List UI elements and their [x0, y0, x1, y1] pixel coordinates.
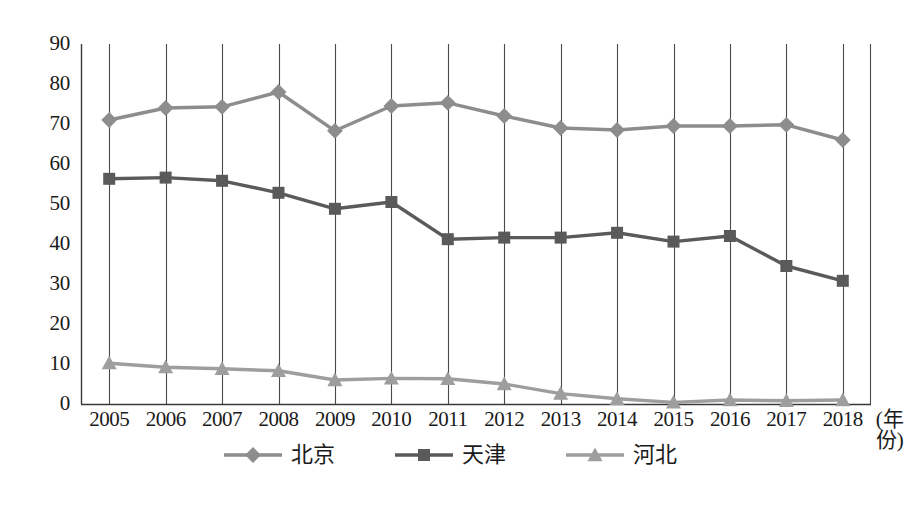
- data-point-marker: [103, 173, 115, 185]
- legend-label: 河北: [633, 444, 677, 466]
- x-axis-tick-label: 2006: [136, 409, 196, 430]
- y-axis-tick-label: 10: [20, 353, 70, 374]
- series-1: [101, 84, 850, 148]
- x-axis-tick-label: 2012: [474, 409, 534, 430]
- y-axis-tick-label: 50: [20, 193, 70, 214]
- legend-label: 天津: [462, 444, 506, 466]
- data-point-marker: [609, 122, 625, 138]
- y-axis-tick-label: 20: [20, 313, 70, 334]
- legend-marker-square-icon: [393, 443, 455, 467]
- x-axis-tick-label: 2005: [79, 409, 139, 430]
- y-axis-tick-label: 80: [20, 73, 70, 94]
- data-point-marker: [329, 203, 341, 215]
- data-point-marker: [835, 132, 851, 148]
- data-point-marker: [160, 172, 172, 184]
- x-axis-tick-label: 2015: [644, 409, 704, 430]
- x-axis-tick-label: 2007: [192, 409, 252, 430]
- data-point-marker: [101, 112, 117, 128]
- data-point-marker: [780, 260, 792, 272]
- data-point-marker: [442, 233, 454, 245]
- data-point-marker: [666, 118, 682, 134]
- series-line: [109, 178, 843, 281]
- data-point-marker: [385, 196, 397, 208]
- y-axis-tick-label: 0: [20, 393, 70, 414]
- legend-marker-triangle-icon: [564, 443, 626, 467]
- data-point-marker: [778, 117, 794, 133]
- data-point-marker: [158, 100, 174, 116]
- data-point-marker: [418, 449, 430, 461]
- x-axis-tick-label: 2008: [249, 409, 309, 430]
- data-point-marker: [837, 275, 849, 287]
- data-point-marker: [214, 99, 230, 115]
- series-3: [102, 356, 851, 409]
- x-axis-tick-label: 2016: [700, 409, 760, 430]
- data-point-marker: [498, 232, 510, 244]
- x-axis-tick-label: 2014: [587, 409, 647, 430]
- legend-label: 北京: [291, 444, 335, 466]
- data-point-marker: [722, 118, 738, 134]
- series-2: [103, 172, 849, 287]
- data-point-marker: [668, 236, 680, 248]
- x-axis-tick-label: 2011: [418, 409, 478, 430]
- series-line: [109, 92, 843, 140]
- y-axis-tick-label: 90: [20, 33, 70, 54]
- y-axis-tick-label: 40: [20, 233, 70, 254]
- data-point-marker: [555, 232, 567, 244]
- data-point-marker: [611, 227, 623, 239]
- x-axis-tick-label: 2018: [813, 409, 873, 430]
- data-point-marker: [724, 230, 736, 242]
- legend-item-2[interactable]: 天津: [393, 443, 506, 467]
- data-point-marker: [496, 108, 512, 124]
- x-axis-tick-label: 2009: [305, 409, 365, 430]
- chart-legend: 北京天津河北: [0, 443, 899, 467]
- data-point-marker: [273, 187, 285, 199]
- x-axis-tick-label: 2017: [756, 409, 816, 430]
- data-point-marker: [440, 95, 456, 111]
- data-point-marker: [245, 447, 261, 463]
- data-point-marker: [553, 120, 569, 136]
- data-point-marker: [383, 98, 399, 114]
- data-point-marker: [216, 175, 228, 187]
- y-axis-tick-label: 60: [20, 153, 70, 174]
- legend-item-1[interactable]: 北京: [222, 443, 335, 467]
- y-axis-tick-label: 70: [20, 113, 70, 134]
- x-axis-tick-label: 2013: [531, 409, 591, 430]
- legend-marker-diamond-icon: [222, 443, 284, 467]
- y-axis-tick-label: 30: [20, 273, 70, 294]
- legend-item-3[interactable]: 河北: [564, 443, 677, 467]
- x-axis-tick-label: 2010: [361, 409, 421, 430]
